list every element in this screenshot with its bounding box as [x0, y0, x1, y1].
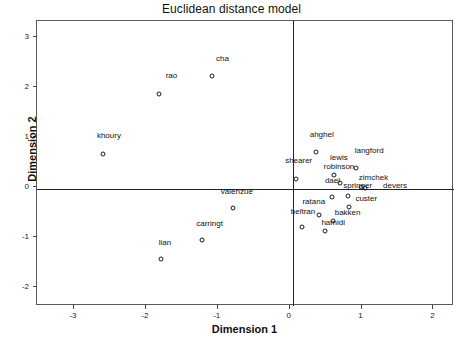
x-tick-label: 1	[358, 311, 362, 320]
data-point-marker	[200, 238, 205, 243]
data-point-marker	[345, 194, 350, 199]
data-point-label: hamidi	[321, 218, 345, 227]
x-tick-label: -2	[141, 311, 148, 320]
data-point-marker	[313, 150, 318, 155]
data-point-label: robinson	[324, 162, 355, 171]
y-tick-mark	[33, 36, 37, 37]
chart-title: Euclidean distance model	[0, 2, 463, 16]
data-point-marker	[316, 213, 321, 218]
data-point-label: ahghel	[310, 130, 334, 139]
data-point-marker	[158, 257, 163, 262]
data-point-marker	[230, 206, 235, 211]
x-tick-mark	[145, 305, 146, 309]
data-point-label: rao	[166, 71, 178, 80]
data-point-label: carringt	[196, 219, 223, 228]
x-tick-mark	[289, 305, 290, 309]
data-point-label: lewis	[330, 153, 348, 162]
data-point-label: ratana	[302, 197, 325, 206]
x-tick-mark	[217, 305, 218, 309]
data-point-label: khoury	[97, 131, 121, 140]
euclidean-distance-scatter-chart: Euclidean distance model -3-2-1012 -2-10…	[0, 0, 463, 345]
data-point-marker	[101, 151, 106, 156]
data-point-label: beltran	[291, 207, 315, 216]
y-tick-mark	[33, 236, 37, 237]
y-tick-label: -2	[22, 282, 29, 291]
data-point-label: langford	[355, 146, 384, 155]
y-tick-label: 3	[25, 32, 29, 41]
data-point-label: valenzue	[221, 187, 253, 196]
y-tick-label: -1	[22, 232, 29, 241]
x-tick-mark	[361, 305, 362, 309]
plot-area: -3-2-1012 -2-10123 charaokhouryahghellan…	[36, 20, 453, 305]
x-tick-label: 0	[286, 311, 290, 320]
x-tick-label: -1	[213, 311, 220, 320]
data-point-marker	[299, 225, 304, 230]
x-axis-title: Dimension 1	[36, 323, 453, 335]
data-point-label: cha	[216, 54, 229, 63]
data-point-marker	[209, 74, 214, 79]
data-point-label: shearer	[285, 156, 312, 165]
y-tick-mark	[33, 286, 37, 287]
x-tick-label: 2	[430, 311, 434, 320]
data-point-marker	[322, 229, 327, 234]
data-point-label: devers	[383, 181, 407, 190]
data-point-marker	[362, 186, 367, 191]
data-point-label: custer	[355, 194, 377, 203]
x-tick-mark	[432, 305, 433, 309]
data-point-label: bakken	[335, 208, 361, 217]
data-point-label: springer	[343, 181, 372, 190]
data-point-label: lian	[159, 238, 171, 247]
data-point-marker	[329, 195, 334, 200]
data-point-label: dael	[325, 176, 340, 185]
data-point-marker	[293, 176, 298, 181]
data-point-marker	[157, 91, 162, 96]
x-tick-label: -3	[69, 311, 76, 320]
y-axis-title: Dimension 2	[26, 69, 38, 229]
x-tick-mark	[73, 305, 74, 309]
